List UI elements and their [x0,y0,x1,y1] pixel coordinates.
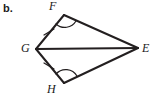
vertex-label-F: F [49,0,56,12]
geometry-figure-screenshot: b. F G H E [0,0,160,98]
vertex-label-H: H [47,83,56,95]
part-label: b. [3,1,13,15]
segment-GE-diagonal [36,48,138,49]
vertex-label-E: E [142,42,149,54]
vertex-label-G: G [21,42,30,54]
segment-HE [64,48,138,83]
angle-arc-H-icon [56,70,77,76]
segment-FE [64,15,138,48]
